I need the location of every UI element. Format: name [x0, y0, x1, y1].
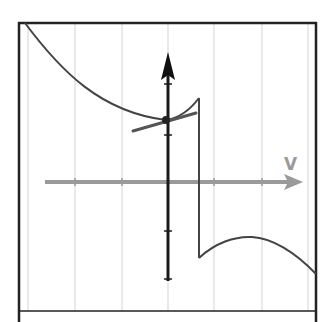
function-diagram — [0, 0, 332, 322]
x-axis — [45, 174, 303, 190]
lower-branch — [199, 237, 316, 274]
function-curve — [25, 23, 316, 274]
y-axis — [161, 52, 175, 281]
tangent-point — [162, 116, 170, 124]
x-axis-label: V — [284, 154, 297, 174]
upper-branch — [25, 23, 199, 120]
